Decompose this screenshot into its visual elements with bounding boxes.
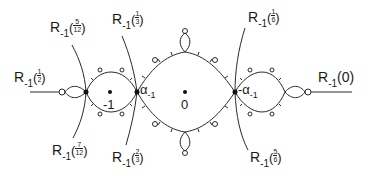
label-ray-0: R-1(0) <box>318 70 354 84</box>
far-left-bulb <box>65 86 86 97</box>
label-ray-5-6: R-1(56) <box>250 150 282 164</box>
ray-1-3 <box>122 36 137 92</box>
label-neg-alpha: -α-1 <box>238 83 258 96</box>
label-ray-1-2: R-1(12) <box>14 70 46 84</box>
label-zero: 0 <box>181 98 188 111</box>
ray-7-12 <box>73 92 86 138</box>
bottom-bulb <box>180 132 190 151</box>
ray-2-3 <box>126 92 137 145</box>
label-ray-7-12: R-1(712) <box>52 143 88 157</box>
label-ray-5-12: R-1(512) <box>50 20 86 34</box>
label-ray-2-3: R-1(23) <box>112 150 144 164</box>
far-right-bulb <box>285 86 305 97</box>
label-ray-1-3: R-1(13) <box>112 12 144 26</box>
ray-5-12 <box>72 45 86 92</box>
point-left-junction <box>84 90 89 95</box>
point-minus-one <box>108 90 112 94</box>
top-bulb <box>180 33 190 52</box>
point-neg-alpha <box>233 90 238 95</box>
point-alpha <box>135 90 140 95</box>
point-zero <box>183 90 187 94</box>
label-alpha: α-1 <box>140 83 156 96</box>
label-minus-one: -1 <box>103 98 115 111</box>
label-ray-1-6: R-1(16) <box>248 10 280 24</box>
